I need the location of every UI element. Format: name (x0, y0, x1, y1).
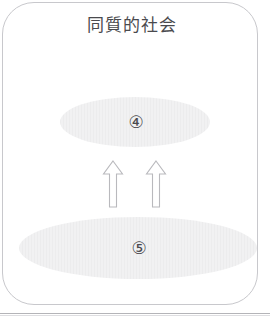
figure-title: 同質的社会 (3, 14, 261, 36)
up-arrow-right-icon (145, 159, 167, 209)
group-label-upper: ④ (60, 97, 210, 147)
figure-container: 同質的社会 ④ ⑤ (0, 0, 270, 321)
group-ellipse-upper: ④ (60, 97, 210, 147)
group-ellipse-lower: ⑤ (19, 217, 257, 279)
page-divider-shadow (0, 315, 270, 316)
diagram-frame: 同質的社会 ④ ⑤ (2, 2, 258, 305)
group-label-lower: ⑤ (19, 217, 257, 279)
page-divider (0, 313, 270, 314)
up-arrow-left-icon (102, 159, 124, 209)
